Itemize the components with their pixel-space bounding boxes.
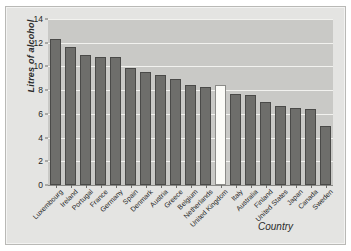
bar xyxy=(320,126,331,185)
x-axis-title: Country xyxy=(258,221,293,232)
bar-series xyxy=(48,19,333,185)
bar xyxy=(245,95,256,185)
bar xyxy=(80,55,91,185)
bar xyxy=(110,57,121,185)
x-tick-mark xyxy=(101,185,102,188)
x-tick-mark xyxy=(71,185,72,188)
chart-screenshot: Litres of alcohol 02468101214 Luxembourg… xyxy=(0,0,351,251)
bar xyxy=(65,47,76,185)
bar xyxy=(215,85,226,185)
figure-panel: Litres of alcohol 02468101214 Luxembourg… xyxy=(5,6,346,245)
bar xyxy=(140,72,151,185)
x-tick-mark xyxy=(56,185,57,188)
bar xyxy=(185,85,196,185)
bar xyxy=(155,75,166,185)
x-tick-mark xyxy=(131,185,132,188)
bar xyxy=(95,57,106,185)
x-tick-mark xyxy=(161,185,162,188)
x-tick-mark xyxy=(296,185,297,188)
y-tick-label: 0 xyxy=(38,180,43,190)
x-tick-mark xyxy=(146,185,147,188)
x-tick-mark xyxy=(116,185,117,188)
x-tick-mark xyxy=(86,185,87,188)
bar xyxy=(50,39,61,185)
x-tick-mark xyxy=(266,185,267,188)
y-tick-label: 12 xyxy=(34,38,43,48)
y-tick-label: 6 xyxy=(38,109,43,119)
y-tick-label: 10 xyxy=(34,61,43,71)
plot-area: 02468101214 xyxy=(48,19,333,185)
x-tick-mark xyxy=(281,185,282,188)
x-tick-mark xyxy=(326,185,327,188)
bar xyxy=(305,109,316,185)
x-tick-mark xyxy=(311,185,312,188)
bar xyxy=(200,87,211,185)
x-tick-label: Luxembourg xyxy=(31,188,63,220)
y-tick-label: 14 xyxy=(34,14,43,24)
y-tick-label: 4 xyxy=(38,133,43,143)
y-tick-label: 8 xyxy=(38,85,43,95)
bar xyxy=(230,94,241,185)
bar xyxy=(170,79,181,185)
bar xyxy=(290,108,301,185)
bar xyxy=(275,106,286,185)
x-tick-mark xyxy=(236,185,237,188)
x-tick-mark xyxy=(176,185,177,188)
bar xyxy=(125,68,136,185)
x-tick-mark xyxy=(251,185,252,188)
x-tick-mark xyxy=(191,185,192,188)
bar xyxy=(260,102,271,185)
x-tick-mark xyxy=(221,185,222,188)
y-tick-label: 2 xyxy=(38,156,43,166)
x-tick-mark xyxy=(206,185,207,188)
